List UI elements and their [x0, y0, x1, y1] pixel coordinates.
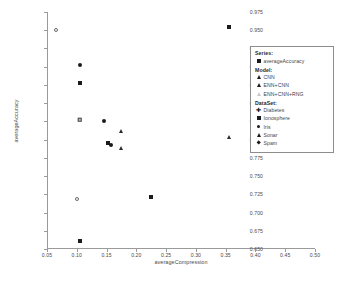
data-point — [78, 118, 83, 123]
y-tick-mark — [44, 48, 47, 49]
data-point — [119, 129, 123, 133]
y-tick-mark — [44, 140, 47, 141]
legend-group-heading: DataSet: — [255, 100, 329, 106]
data-point — [109, 143, 113, 147]
scatter-chart: 0.9750.9500.9250.9000.8750.8500.8250.800… — [0, 0, 339, 284]
legend-item-label: CNN — [264, 74, 275, 80]
legend-item[interactable]: ENN+CNN+RNG — [256, 90, 329, 97]
y-tick-label: 0.750 — [250, 173, 263, 179]
legend-item-label: ENN+CNN+RNG — [264, 91, 304, 97]
data-point — [102, 119, 106, 123]
y-tick-label: 0.975 — [250, 9, 263, 15]
legend-marker-icon — [256, 124, 261, 129]
legend-item[interactable]: Sonar — [256, 131, 329, 138]
y-axis-title: averageAccuracy — [13, 76, 19, 166]
legend-item-label: averageAccuracy — [264, 58, 305, 64]
data-point — [149, 195, 153, 199]
legend-item-label: Spam — [264, 140, 278, 146]
y-tick-mark — [44, 158, 47, 159]
y-tick-mark — [44, 67, 47, 68]
y-tick-mark — [44, 231, 47, 232]
legend-marker-icon: ✚ — [256, 108, 261, 113]
y-tick-mark — [44, 103, 47, 104]
data-point — [78, 81, 82, 85]
x-tick-label: 0.20 — [131, 252, 141, 258]
x-tick-label: 0.15 — [101, 252, 111, 258]
data-point — [227, 135, 231, 139]
y-tick-label: 0.775 — [250, 155, 263, 161]
data-point — [227, 25, 231, 29]
data-point — [78, 239, 82, 243]
y-axis-line — [47, 12, 48, 249]
legend-item[interactable]: averageAccuracy — [256, 57, 329, 64]
y-tick-mark — [44, 213, 47, 214]
x-tick-label: 0.10 — [72, 252, 82, 258]
legend-item-label: Iris — [264, 124, 271, 130]
legend-item[interactable]: ENN+CNN — [256, 82, 329, 89]
legend-item-label: Sonar — [264, 132, 278, 138]
x-tick-label: 0.50 — [310, 252, 320, 258]
legend-marker-icon — [256, 141, 261, 146]
legend: Series:averageAccuracyModel:CNNENN+CNNEN… — [250, 46, 334, 153]
y-tick-label: 0.675 — [250, 228, 263, 234]
y-tick-label: 0.725 — [250, 191, 263, 197]
y-tick-mark — [44, 121, 47, 122]
legend-item[interactable]: Iris — [256, 123, 329, 130]
legend-marker-icon — [256, 116, 261, 121]
x-tick-label: 0.25 — [161, 252, 171, 258]
legend-item-label: ENN+CNN — [264, 82, 289, 88]
data-point — [119, 146, 123, 150]
x-tick-label: 0.30 — [191, 252, 201, 258]
x-tick-label: 0.35 — [220, 252, 230, 258]
legend-item[interactable]: ✚Diabetes — [256, 107, 329, 114]
y-tick-mark — [44, 194, 47, 195]
x-tick-label: 0.05 — [42, 252, 52, 258]
y-tick-mark — [44, 176, 47, 177]
legend-item[interactable]: Spam — [256, 140, 329, 147]
data-point — [54, 28, 58, 32]
data-point — [78, 63, 82, 67]
y-tick-mark — [44, 85, 47, 86]
legend-item[interactable]: Ionosphere — [256, 115, 329, 122]
x-tick-label: 0.40 — [250, 252, 260, 258]
x-tick-label: 0.45 — [280, 252, 290, 258]
y-tick-mark — [44, 30, 47, 31]
y-tick-mark — [44, 12, 47, 13]
legend-item-label: Diabetes — [264, 107, 285, 113]
legend-marker-icon — [256, 58, 261, 63]
x-axis-title: averageCompression — [47, 259, 315, 265]
y-tick-label: 0.700 — [250, 210, 263, 216]
data-point — [75, 197, 79, 201]
legend-marker-icon — [256, 132, 261, 137]
y-tick-label: 0.950 — [250, 27, 263, 33]
legend-item-label: Ionosphere — [264, 115, 291, 121]
legend-group-heading: Model: — [255, 67, 329, 73]
legend-marker-icon — [256, 91, 261, 96]
legend-marker-icon — [256, 83, 261, 88]
legend-group-heading: Series: — [255, 50, 329, 56]
legend-marker-icon — [256, 75, 261, 80]
legend-item[interactable]: CNN — [256, 74, 329, 81]
x-axis-line — [47, 248, 315, 249]
